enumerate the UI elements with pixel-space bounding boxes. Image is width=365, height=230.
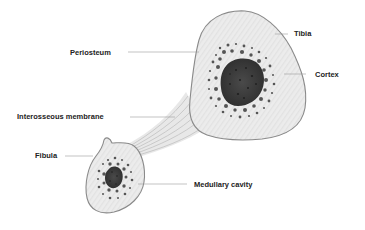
label-medullary-cavity: Medullary cavity	[194, 180, 252, 189]
tibia-bone	[190, 11, 306, 140]
label-periosteum: Periosteum	[70, 48, 111, 57]
label-tibia: Tibia	[294, 29, 311, 38]
label-fibula: Fibula	[35, 151, 57, 160]
label-interosseous-membrane: Interosseous membrane	[17, 112, 104, 121]
fibula-bone	[86, 138, 145, 213]
label-cortex: Cortex	[315, 70, 339, 79]
anatomy-diagram: Tibia Periosteum Cortex Interosseous mem…	[0, 0, 365, 230]
